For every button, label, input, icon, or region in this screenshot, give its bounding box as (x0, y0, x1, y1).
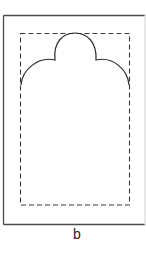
outer-frame (4, 16, 146, 225)
figure-label: b (0, 226, 146, 242)
diagram (0, 0, 146, 261)
trefoil-arch (21, 33, 129, 85)
dashed-inner-rect (21, 34, 130, 206)
